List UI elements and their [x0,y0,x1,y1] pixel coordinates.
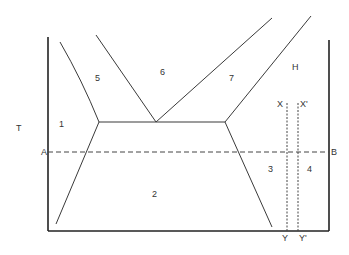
boundary-1-5 [60,42,99,122]
region-label-1: 1 [59,119,64,129]
boundary-5-6 [96,35,156,122]
region-label-3: 3 [268,164,273,174]
boundary-6-7 [156,18,272,122]
region-label-2: 2 [152,189,157,199]
label-X-prime: X' [300,99,308,109]
region-label-7: 7 [229,73,234,83]
region-label-5: 5 [95,73,100,83]
label-Y: Y [282,233,288,243]
axis-label-T: T [16,123,22,133]
label-A: A [41,147,47,157]
label-B: B [331,147,337,157]
phase-diagram: T A B X X' Y Y' 1 2 3 4 5 6 7 H [0,0,349,255]
region-label-4: 4 [307,164,312,174]
boundary-1-2 [56,122,99,224]
region-label-H: H [292,62,299,72]
boundary-2-3 [225,122,272,227]
region-label-6: 6 [160,67,165,77]
label-X: X [277,99,283,109]
label-Y-prime: Y' [299,233,307,243]
